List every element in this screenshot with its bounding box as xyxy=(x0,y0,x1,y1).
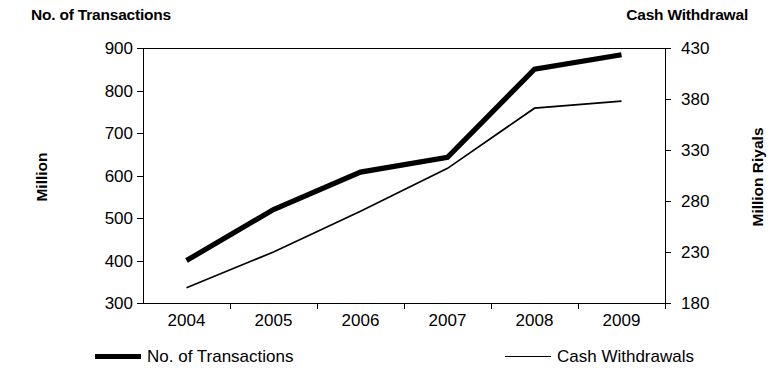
x-tick-label: 2007 xyxy=(429,312,467,329)
left-tick-label: 800 xyxy=(105,82,133,99)
x-tick-label: 2009 xyxy=(603,312,641,329)
legend-item-label: Cash Withdrawals xyxy=(557,348,694,365)
right-tick-label: 230 xyxy=(681,244,709,261)
x-tick-label: 2008 xyxy=(516,312,554,329)
right-tick-mark xyxy=(665,252,671,253)
legend-item[interactable]: Cash Withdrawals xyxy=(505,348,694,365)
plot-area: 300400500600700800900 180230280330380430… xyxy=(143,48,665,303)
right-tick-mark xyxy=(665,150,671,151)
legend-line-swatch-icon xyxy=(505,356,551,357)
series-line-1 xyxy=(187,101,622,288)
chart-container: No. of Transactions Cash Withdrawal Mill… xyxy=(0,0,784,384)
x-tick-label: 2005 xyxy=(255,312,293,329)
right-tick-label: 180 xyxy=(681,295,709,312)
left-axis-label: Million xyxy=(33,132,51,222)
chart-legend: No. of TransactionsCash Withdrawals xyxy=(0,348,784,378)
right-tick-label: 380 xyxy=(681,91,709,108)
right-tick-label: 330 xyxy=(681,142,709,159)
x-tick-mark xyxy=(578,303,579,309)
left-tick-label: 500 xyxy=(105,210,133,227)
right-tick-label: 430 xyxy=(681,40,709,57)
right-axis-line xyxy=(665,48,666,303)
left-tick-mark xyxy=(137,303,143,304)
x-tick-mark xyxy=(317,303,318,309)
x-tick-mark xyxy=(404,303,405,309)
x-tick-label: 2004 xyxy=(168,312,206,329)
left-tick-label: 900 xyxy=(105,40,133,57)
right-tick-mark xyxy=(665,48,671,49)
left-tick-label: 600 xyxy=(105,167,133,184)
legend-item-label: No. of Transactions xyxy=(147,348,293,365)
left-tick-label: 400 xyxy=(105,252,133,269)
series-lines xyxy=(143,48,665,303)
right-axis-label: Million Riyals xyxy=(749,107,767,247)
left-tick-label: 700 xyxy=(105,125,133,142)
right-tick-label: 280 xyxy=(681,193,709,210)
right-axis-title: Cash Withdrawal xyxy=(626,6,748,24)
legend-item[interactable]: No. of Transactions xyxy=(95,348,293,365)
x-tick-mark xyxy=(665,303,666,309)
right-tick-mark xyxy=(665,201,671,202)
x-tick-mark xyxy=(230,303,231,309)
legend-line-swatch-icon xyxy=(95,354,141,359)
left-tick-label: 300 xyxy=(105,295,133,312)
series-line-0 xyxy=(187,55,622,261)
x-tick-mark xyxy=(491,303,492,309)
x-tick-label: 2006 xyxy=(342,312,380,329)
left-axis-title: No. of Transactions xyxy=(31,6,171,24)
right-tick-mark xyxy=(665,99,671,100)
